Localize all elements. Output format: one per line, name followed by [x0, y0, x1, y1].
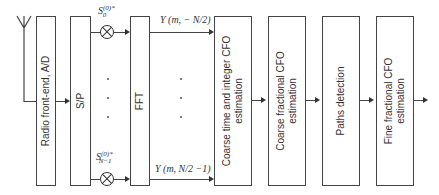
block-coarse-fractional-cfo: Coarse fractional CFO estimation — [268, 16, 306, 186]
connector — [150, 32, 210, 33]
block-fft: FFT — [130, 16, 150, 186]
connector — [150, 179, 210, 180]
ellipsis-dot — [107, 116, 109, 118]
block-label: Coarse fractional CFO estimation — [275, 46, 299, 156]
s0-label: S(0)*0 — [98, 4, 106, 19]
block-label: Paths detection — [335, 67, 347, 136]
block-radio-front-end: Radio front-end, A/D — [36, 16, 56, 186]
arrow-icon — [315, 97, 320, 103]
ellipsis-dot — [180, 78, 182, 80]
antenna-icon — [14, 14, 34, 104]
block-label: Fine fractional CFO estimation — [383, 51, 407, 151]
ellipsis-dot — [180, 116, 182, 118]
ellipsis-dot — [180, 97, 182, 99]
block-paths-detection: Paths detection — [322, 16, 360, 186]
block-label: FFT — [134, 92, 146, 110]
ellipsis-dot — [107, 97, 109, 99]
ellipsis-dot — [107, 78, 109, 80]
multiplier-icon — [100, 25, 114, 39]
block-sp: S/P — [70, 16, 91, 186]
y-top-label: Y (m, − N/2) — [160, 14, 211, 25]
block-label: Coarse time and integer CFO estimation — [221, 26, 245, 176]
output-arrow-icon — [423, 97, 428, 103]
multiplier-icon — [100, 172, 114, 186]
sn-label: S(0)*N−1 — [96, 150, 112, 165]
block-coarse-time-integer-cfo: Coarse time and integer CFO estimation — [214, 16, 252, 186]
arrow-icon — [261, 97, 266, 103]
block-fine-fractional-cfo: Fine fractional CFO estimation — [376, 16, 414, 186]
block-label: S/P — [75, 93, 87, 109]
block-label: Radio front-end, A/D — [40, 56, 52, 147]
y-bottom-label: Y (m, N/2 −1) — [155, 163, 211, 174]
arrow-icon — [369, 97, 374, 103]
antenna-to-radio-line — [24, 101, 36, 102]
